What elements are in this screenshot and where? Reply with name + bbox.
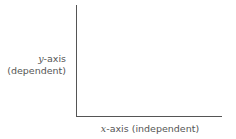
x-axis-line xyxy=(76,116,222,117)
x-axis-suffix: -axis (independent) xyxy=(106,123,199,134)
y-axis-label: y-axis (dependent) xyxy=(4,53,66,77)
y-axis-description: (dependent) xyxy=(4,65,66,77)
y-axis-suffix: -axis xyxy=(44,53,66,64)
x-axis-label: x-axis (independent) xyxy=(90,123,210,135)
y-axis-line xyxy=(76,5,77,117)
